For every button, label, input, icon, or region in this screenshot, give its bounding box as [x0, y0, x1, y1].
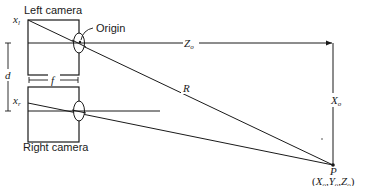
origin-dot — [79, 41, 81, 43]
right-camera-box — [28, 87, 79, 142]
z-arrowhead — [326, 41, 332, 46]
left-camera-box — [28, 20, 79, 75]
d-label: d — [5, 69, 11, 81]
xl-label: xl — [12, 13, 20, 27]
stereo-diagram: Left camera Right camera Origin xl xr d … — [0, 0, 365, 186]
origin-label: Origin — [96, 22, 125, 34]
xr-label: xr — [12, 94, 21, 108]
left-camera-label: Left camera — [24, 4, 83, 16]
p-coordinates: (Xo,Yo,Zo) — [312, 175, 355, 186]
right-camera-label: Right camera — [23, 141, 89, 153]
r-label: R — [182, 82, 190, 94]
